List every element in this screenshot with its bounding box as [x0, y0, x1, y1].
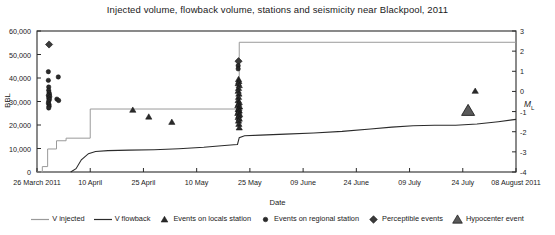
event-marker-events-on-regional-station [56, 98, 60, 102]
legend-item: Events on locals station [159, 214, 251, 225]
y-tick-label-right: 2 [520, 47, 524, 56]
y-tick-label-left: 20,000 [0, 121, 31, 130]
legend-item: Events on regional station [260, 214, 359, 225]
y-tick-label-right: -2 [520, 128, 526, 137]
y-tick-label-left: 50,000 [0, 51, 31, 60]
event-marker-events-on-regional-station [46, 69, 50, 73]
legend-circle-icon [260, 214, 271, 225]
legend-label: V flowback [115, 215, 151, 222]
event-marker-events-on-locals-station [146, 114, 152, 119]
legend-line-icon [94, 214, 112, 225]
legend-item: Perceptible events [368, 214, 443, 225]
event-marker-perceptible-events [45, 41, 52, 48]
y-tick-label-right: 3 [520, 27, 524, 36]
y-tick-label-left: 40,000 [0, 74, 31, 83]
y-tick-label-left: 30,000 [0, 98, 31, 107]
legend-label: Perceptible events [382, 215, 443, 222]
legend-label: V injected [52, 215, 84, 222]
legend-label: Hypocenter event [466, 215, 524, 222]
series-line-v-injected [37, 42, 516, 172]
event-marker-events-on-regional-station [56, 75, 60, 79]
legend-item: Hypocenter event [452, 214, 524, 225]
legend-line-icon [31, 214, 49, 225]
chart-figure: Injected volume, flowback volume, statio… [0, 0, 555, 235]
y-tick-label-right: 0 [520, 87, 524, 96]
event-marker-events-on-regional-station [236, 67, 240, 71]
x-tick-label: 08 August 2011 [471, 178, 555, 187]
legend-item: V injected [31, 214, 84, 225]
event-marker-hypocenter-event [462, 104, 475, 115]
y-tick-label-left: 0 [0, 168, 31, 177]
event-marker-events-on-locals-station [169, 119, 175, 124]
y-tick-label-right: -4 [520, 168, 526, 177]
legend-diamond-icon [368, 214, 379, 225]
event-marker-events-on-locals-station [130, 107, 136, 112]
y-tick-label-left: 10,000 [0, 145, 31, 154]
legend-label: Events on locals station [173, 215, 251, 222]
x-axis-label: Date [0, 198, 555, 207]
chart-legend: V injectedV flowbackEvents on locals sta… [0, 212, 555, 226]
legend-label: Events on regional station [274, 215, 359, 222]
y-tick-label-right: 1 [520, 67, 524, 76]
event-marker-events-on-locals-station [472, 88, 478, 93]
event-marker-events-on-regional-station [46, 78, 50, 82]
legend-triangle-icon [159, 214, 170, 225]
y-tick-label-right: -1 [520, 108, 526, 117]
event-marker-events-on-regional-station [47, 106, 51, 110]
y-tick-label-left: 60,000 [0, 27, 31, 36]
legend-item: V flowback [94, 214, 151, 225]
y-tick-label-right: -3 [520, 148, 526, 157]
legend-triangle-large-icon [452, 214, 463, 225]
series-line-v-flowback [71, 119, 516, 172]
